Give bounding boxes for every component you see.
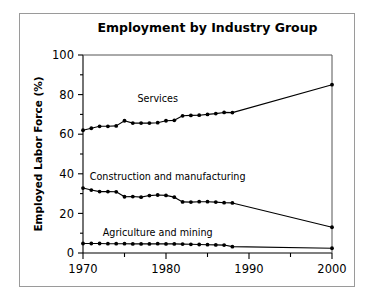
series-point	[181, 200, 185, 204]
series-point	[106, 190, 110, 194]
series-point	[172, 242, 176, 246]
chart-frame: Employment by Industry GroupEmployed Lab…	[19, 13, 355, 287]
series-point	[206, 200, 210, 204]
series-point	[164, 242, 168, 246]
series-point	[139, 121, 143, 125]
series-point	[197, 200, 201, 204]
series-point	[172, 118, 176, 122]
series-point	[123, 119, 127, 123]
series-point	[330, 83, 334, 87]
series-point	[131, 195, 135, 199]
y-tick-label: 100	[52, 48, 74, 62]
series-line-1	[83, 188, 332, 227]
series-point	[98, 190, 102, 194]
series-point	[156, 193, 160, 197]
series-point	[156, 242, 160, 246]
series-point	[89, 126, 93, 130]
series-point	[189, 242, 193, 246]
series-point	[89, 188, 93, 192]
x-tick-label: 1970	[68, 262, 97, 276]
series-point	[114, 190, 118, 194]
series-point	[81, 242, 85, 246]
series-point	[330, 225, 334, 229]
series-point	[106, 242, 110, 246]
series-point	[89, 242, 93, 246]
employment-line-chart: Employment by Industry GroupEmployed Lab…	[20, 14, 354, 286]
figure-root: Employment by Industry GroupEmployed Lab…	[0, 0, 372, 301]
series-point	[139, 242, 143, 246]
series-point	[131, 121, 135, 125]
series-point	[222, 111, 226, 115]
y-tick-label: 40	[59, 167, 74, 181]
series-point	[197, 113, 201, 117]
chart-title: Employment by Industry Group	[97, 20, 317, 35]
series-point	[231, 111, 235, 115]
x-tick-label: 1980	[151, 262, 180, 276]
series-point	[181, 114, 185, 118]
series-point	[214, 112, 218, 116]
series-point	[98, 124, 102, 128]
series-point	[106, 124, 110, 128]
y-axis-title: Employed Labor Force (%)	[32, 76, 44, 231]
series-point	[81, 186, 85, 190]
series-point	[214, 243, 218, 247]
series-point	[206, 113, 210, 117]
series-point	[172, 195, 176, 199]
series-label-0: Services	[137, 93, 177, 104]
series-point	[222, 243, 226, 247]
series-point	[164, 119, 168, 123]
y-tick-label: 60	[59, 127, 74, 141]
series-label-2: Agriculture and mining	[103, 227, 213, 238]
series-point	[181, 242, 185, 246]
series-point	[139, 195, 143, 199]
series-point	[231, 245, 235, 249]
series-point	[148, 194, 152, 198]
series-point	[206, 243, 210, 247]
series-point	[231, 201, 235, 205]
series-point	[189, 200, 193, 204]
x-tick-label: 1990	[234, 262, 263, 276]
series-point	[156, 121, 160, 125]
series-point	[197, 243, 201, 247]
series-point	[164, 193, 168, 197]
y-tick-label: 80	[59, 88, 74, 102]
series-point	[214, 200, 218, 204]
series-point	[189, 113, 193, 117]
series-point	[98, 242, 102, 246]
x-tick-label: 2000	[317, 262, 346, 276]
series-point	[123, 195, 127, 199]
series-point	[123, 242, 127, 246]
series-line-0	[83, 85, 332, 131]
series-point	[114, 124, 118, 128]
series-point	[148, 121, 152, 125]
series-point	[81, 128, 85, 132]
series-point	[131, 242, 135, 246]
series-point	[222, 201, 226, 205]
y-tick-label: 20	[59, 207, 74, 221]
series-point	[148, 242, 152, 246]
series-point	[114, 242, 118, 246]
series-point	[330, 246, 334, 250]
series-label-1: Construction and manufacturing	[90, 171, 246, 182]
y-tick-label: 0	[67, 246, 74, 260]
